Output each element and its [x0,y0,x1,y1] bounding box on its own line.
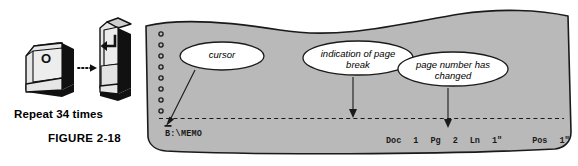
letter-o-keycap: O [26,43,74,97]
status-gap [441,129,453,147]
callout-bubble-page-break [303,41,413,75]
status-pos-label: Pos [532,136,547,146]
text-cursor-mark [165,125,172,127]
callout-bubble-cursor [180,42,264,70]
screen-status-line: Doc 1 Pg 2 Ln 1" Pos 1" [386,129,570,147]
letter-o-glyph: O [41,51,51,66]
status-gap [401,129,413,147]
enter-keycap [100,18,131,101]
keyboard-keys-illustration: O [0,0,150,166]
screen-paper-illustration: cursor indication of page break page num… [140,0,578,166]
status-gap [458,129,470,147]
status-gap [502,129,532,147]
status-pg-label: Pg [430,136,440,146]
status-ln-value: 1" [492,136,502,146]
status-ln-label: Ln [470,136,480,146]
screen-filename-text: B:\MEMO [165,129,202,139]
status-gap [547,129,559,147]
status-gap [418,129,430,147]
figure-2-18: O [0,0,578,166]
status-doc-label: Doc [386,136,401,146]
status-gap [480,129,492,147]
dotted-right-arrow-icon [78,64,97,72]
callout-bubble-page-number [398,52,508,86]
status-pos-value: 1" [559,136,569,146]
caption-repeat-text: Repeat 34 times [14,108,144,120]
